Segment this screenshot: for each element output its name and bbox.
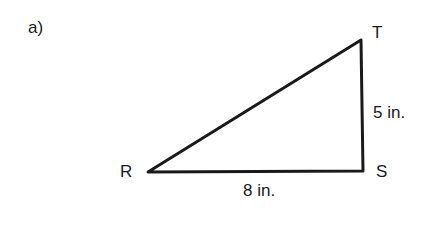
vertex-label-s: S — [376, 163, 387, 180]
vertex-label-r: R — [120, 163, 132, 180]
side-label-rs: 8 in. — [243, 182, 275, 199]
vertex-label-t: T — [372, 24, 382, 41]
side-label-st: 5 in. — [373, 104, 405, 121]
